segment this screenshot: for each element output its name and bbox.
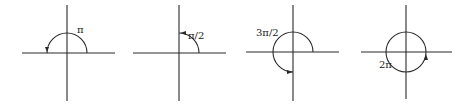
diagram-3pi-over-2: 3π/2 — [246, 5, 339, 101]
diagram-pi-over-2: π/2 — [133, 5, 226, 101]
angle-label: 3π/2 — [256, 27, 279, 38]
angle-label: π/2 — [188, 30, 204, 41]
diagram-pi: π — [22, 5, 115, 101]
angle-diagrams: π π/2 3π/2 2π — [0, 0, 470, 107]
arrowhead-icon — [45, 47, 49, 52]
arrowhead-icon — [287, 70, 293, 74]
angle-label: 2π — [379, 59, 392, 70]
diagram-2pi: 2π — [361, 5, 452, 99]
arrowhead-icon — [424, 54, 428, 60]
arrowhead-icon — [180, 31, 186, 35]
angle-label: π — [77, 24, 84, 35]
